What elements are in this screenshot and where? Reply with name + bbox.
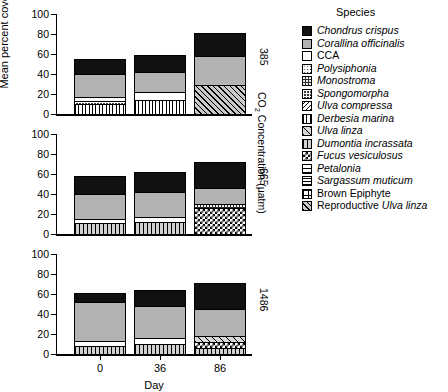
bar-segment bbox=[135, 193, 185, 219]
y-tick-group: 40 bbox=[56, 314, 57, 315]
bar-segment bbox=[135, 101, 185, 114]
legend: Species Chondrus crispusCorallina offici… bbox=[302, 6, 448, 213]
bar-segment bbox=[135, 307, 185, 339]
bar-day-0 bbox=[74, 293, 126, 354]
y-tick-label: 60 bbox=[37, 49, 49, 60]
panel-label-385: 385 bbox=[258, 48, 270, 66]
legend-swatch-icon bbox=[302, 139, 312, 149]
y-tick-mark bbox=[51, 114, 56, 115]
legend-swatch-icon bbox=[302, 201, 312, 211]
plot-area: 020406080100 bbox=[56, 134, 252, 234]
y-tick-group: 0 bbox=[56, 354, 57, 355]
x-axis-line bbox=[56, 114, 252, 116]
bar-day-36 bbox=[134, 55, 186, 114]
panel-co2-1486: 020406080100148603686Day bbox=[56, 254, 252, 358]
legend-item: Derbesia marina bbox=[302, 113, 448, 125]
y-tick-label: 80 bbox=[37, 29, 49, 40]
legend-item: Brown Epiphyte bbox=[302, 188, 448, 200]
y-tick-group: 80 bbox=[56, 274, 57, 275]
legend-item: Polysiphonia bbox=[302, 63, 448, 75]
bar-segment bbox=[75, 303, 125, 342]
legend-label: Sargassum muticum bbox=[317, 175, 413, 187]
bar-segment bbox=[75, 105, 125, 114]
legend-swatch-icon bbox=[302, 151, 312, 161]
x-axis-line bbox=[56, 234, 252, 236]
y-tick-group: 100 bbox=[56, 254, 57, 255]
x-tick-label: 86 bbox=[214, 362, 226, 374]
x-tick-label: 0 bbox=[97, 362, 103, 374]
bar-segment bbox=[135, 339, 185, 345]
legend-swatch-icon bbox=[302, 176, 312, 186]
legend-label: Ulva linza bbox=[317, 125, 363, 137]
legend-items: Chondrus crispusCorallina officinalisCCA… bbox=[302, 25, 448, 212]
x-axis-label: Day bbox=[56, 379, 252, 391]
legend-label: Fucus vesiculosus bbox=[317, 150, 403, 162]
y-tick-label: 80 bbox=[37, 149, 49, 160]
y-axis-line bbox=[56, 14, 57, 114]
legend-swatch-icon bbox=[302, 164, 312, 174]
bar-segment bbox=[75, 342, 125, 347]
legend-swatch-icon bbox=[302, 76, 312, 86]
y-tick-group: 60 bbox=[56, 294, 57, 295]
legend-swatch-icon bbox=[302, 64, 312, 74]
legend-swatch-icon bbox=[302, 101, 312, 111]
bar-segment bbox=[75, 220, 125, 224]
bar-segment bbox=[135, 93, 185, 101]
bar-segment bbox=[135, 73, 185, 94]
y-tick-mark bbox=[51, 134, 56, 135]
legend-swatch-icon bbox=[302, 39, 312, 49]
x-tick-mark bbox=[160, 355, 161, 360]
legend-swatch-icon bbox=[302, 51, 312, 61]
y-axis-label: Mean percent cover bbox=[0, 0, 10, 120]
y-tick-mark bbox=[51, 54, 56, 55]
legend-item: Chondrus crispus bbox=[302, 25, 448, 37]
bar-segment bbox=[195, 310, 245, 338]
bar-day-86 bbox=[194, 33, 246, 114]
bar-segment bbox=[195, 284, 245, 310]
y-tick-label: 40 bbox=[37, 69, 49, 80]
bar-segment bbox=[195, 163, 245, 189]
legend-label: Polysiphonia bbox=[317, 63, 377, 75]
y-tick-mark bbox=[51, 274, 56, 275]
bar-segment bbox=[75, 75, 125, 99]
y-axis-line bbox=[56, 254, 57, 354]
legend-swatch-icon bbox=[302, 189, 312, 199]
legend-item: Fucus vesiculosus bbox=[302, 150, 448, 162]
bar-segment bbox=[195, 189, 245, 206]
y-tick-mark bbox=[51, 74, 56, 75]
y-tick-mark bbox=[51, 154, 56, 155]
legend-item: Dumontia incrassata bbox=[302, 138, 448, 150]
bar-segment bbox=[75, 195, 125, 221]
bar-segment bbox=[75, 177, 125, 195]
y-tick-group: 40 bbox=[56, 74, 57, 75]
bar-segment bbox=[135, 345, 185, 354]
legend-item: Petalonia bbox=[302, 163, 448, 175]
y-tick-mark bbox=[51, 294, 56, 295]
legend-item: Corallina officinalis bbox=[302, 38, 448, 50]
group-axis-title-suffix: Concentration (µatm) bbox=[256, 112, 268, 214]
y-tick-group: 20 bbox=[56, 94, 57, 95]
legend-item: Ulva linza bbox=[302, 125, 448, 137]
bar-segment bbox=[135, 291, 185, 307]
legend-swatch-icon bbox=[302, 114, 312, 124]
y-tick-label: 20 bbox=[37, 209, 49, 220]
bar-segment bbox=[195, 343, 245, 349]
bar-segment bbox=[195, 205, 245, 209]
legend-item: CCA bbox=[302, 50, 448, 62]
legend-item: Monostroma bbox=[302, 75, 448, 87]
y-tick-mark bbox=[51, 14, 56, 15]
x-axis-line bbox=[56, 354, 252, 356]
legend-label: Petalonia bbox=[317, 163, 361, 175]
legend-item: Ulva compressa bbox=[302, 100, 448, 112]
y-tick-label: 0 bbox=[43, 349, 49, 360]
y-axis-line bbox=[56, 134, 57, 234]
y-tick-group: 100 bbox=[56, 134, 57, 135]
legend-label: Derbesia marina bbox=[317, 113, 394, 125]
bar-segment bbox=[135, 56, 185, 73]
group-axis-title-prefix: CO bbox=[256, 92, 268, 108]
bar-segment bbox=[75, 347, 125, 354]
group-axis-title: CO2 Concentration (µatm) bbox=[253, 92, 268, 214]
y-tick-label: 0 bbox=[43, 229, 49, 240]
y-tick-label: 40 bbox=[37, 189, 49, 200]
legend-label: Brown Epiphyte bbox=[317, 188, 391, 200]
